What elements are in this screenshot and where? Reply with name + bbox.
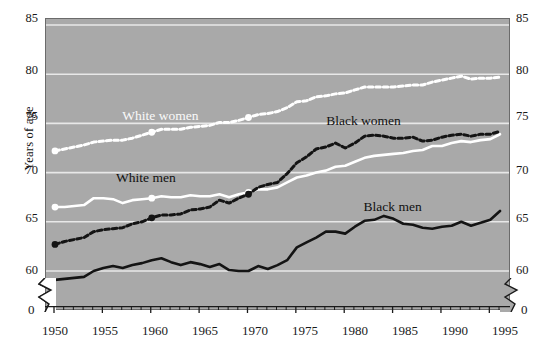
x-tick-1985: 1985 [382, 324, 428, 337]
series-label-black-men: Black men [364, 199, 422, 215]
x-tick-1980: 1980 [332, 324, 378, 337]
x-tick-1970: 1970 [232, 324, 278, 337]
series-marker [245, 114, 252, 121]
y-tick-right-60: 60 [516, 264, 543, 276]
x-tick-1950: 1950 [32, 324, 78, 337]
series-canvas [46, 19, 510, 310]
series-marker [148, 129, 155, 136]
y-tick-right-85: 85 [516, 12, 543, 24]
x-tick-1990: 1990 [432, 324, 478, 337]
x-tick-1995: 1995 [482, 324, 528, 337]
x-tick-1960: 1960 [132, 324, 178, 337]
plot-area [45, 18, 510, 310]
series-marker [245, 191, 252, 198]
y-tick-left-85: 85 [8, 12, 38, 24]
y-tick-left-0: 0 [28, 302, 35, 318]
y-tick-right-80: 80 [516, 64, 543, 76]
series-marker [52, 204, 59, 211]
y-axis-title: Years of age [22, 84, 37, 194]
series-marker [52, 241, 59, 248]
series-marker [148, 214, 155, 221]
y-tick-right-0: 0 [521, 302, 528, 318]
y-tick-right-65: 65 [516, 212, 543, 224]
y-tick-left-70: 70 [8, 164, 38, 176]
chart-figure: Years of age 85 80 75 70 65 60 0 85 80 7… [0, 0, 543, 352]
series-label-white-men: White men [116, 170, 176, 186]
y-tick-left-80: 80 [8, 64, 38, 76]
series-label-white-women: White women [122, 108, 198, 124]
series-marker [148, 195, 155, 202]
y-tick-left-60: 60 [8, 264, 38, 276]
x-axis [38, 306, 518, 320]
series-label-black-women: Black women [326, 113, 401, 129]
y-tick-left-65: 65 [8, 212, 38, 224]
y-tick-right-75: 75 [516, 110, 543, 122]
x-tick-1955: 1955 [82, 324, 128, 337]
y-tick-right-70: 70 [516, 164, 543, 176]
series-marker [52, 148, 59, 155]
x-tick-1965: 1965 [182, 324, 228, 337]
y-tick-left-75: 75 [8, 110, 38, 122]
x-tick-1975: 1975 [282, 324, 328, 337]
